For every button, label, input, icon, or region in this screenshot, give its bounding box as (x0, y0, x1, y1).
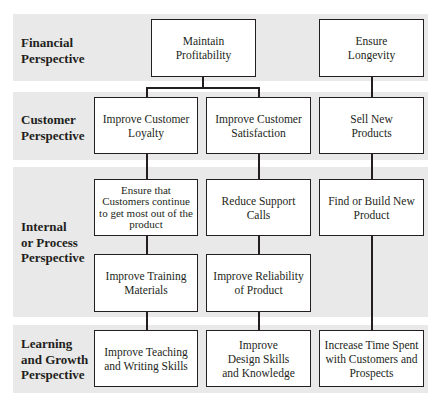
band-label-line: and Growth (21, 352, 88, 368)
node-label: Improve Customer Loyalty (98, 112, 194, 140)
node-sell-new-products: Sell New Products (319, 97, 424, 154)
node-label: Improve Design Skills and Knowledge (210, 338, 307, 380)
connector (371, 77, 373, 97)
node-label: Sell New Products (323, 112, 420, 140)
node-label: Improve Teaching and Writing Skills (98, 345, 194, 373)
node-label: Improve Training Materials (98, 269, 194, 297)
node-label: Improve Customer Satisfaction (210, 112, 307, 140)
band-label-line: or Process (21, 235, 85, 251)
node-improve-design-skills: Improve Design Skills and Knowledge (206, 330, 311, 387)
band-label-line: Perspective (21, 250, 85, 266)
node-find-or-build-new-product: Find or Build New Product (319, 179, 424, 236)
connector (258, 154, 260, 179)
connector (371, 154, 373, 179)
node-improve-customer-satisfaction: Improve Customer Satisfaction (206, 97, 311, 154)
connector (146, 236, 148, 254)
band-label-line: Internal (21, 219, 85, 235)
node-label: Ensure that Customers continue to get mo… (98, 185, 194, 231)
band-label-line: Perspective (21, 51, 85, 67)
node-improve-reliability-of-product: Improve Reliability of Product (206, 254, 311, 312)
band-label-line: Learning (21, 336, 88, 352)
connector (146, 312, 148, 330)
node-maintain-profitability: Maintain Profitability (151, 19, 256, 77)
band-label-internal: Internal or Process Perspective (21, 219, 85, 266)
node-label: Improve Reliability of Product (210, 269, 307, 297)
band-label-line: Perspective (21, 367, 88, 383)
band-label-learning: Learning and Growth Perspective (21, 336, 88, 383)
connector (258, 236, 260, 254)
node-improve-training-materials: Improve Training Materials (94, 254, 198, 312)
connector (371, 236, 373, 330)
band-label-line: Perspective (21, 128, 85, 144)
connector (258, 312, 260, 330)
band-label-line: Customer (21, 112, 85, 128)
node-reduce-support-calls: Reduce Support Calls (206, 179, 311, 236)
connector (146, 87, 259, 89)
node-label: Ensure Longevity (323, 34, 420, 62)
node-label: Find or Build New Product (323, 194, 420, 222)
band-label-financial: Financial Perspective (21, 35, 85, 66)
band-label-line: Financial (21, 35, 85, 51)
connector (258, 87, 260, 97)
node-improve-customer-loyalty: Improve Customer Loyalty (94, 97, 198, 154)
node-label: Reduce Support Calls (210, 194, 307, 222)
node-ensure-customers-continue: Ensure that Customers continue to get mo… (94, 179, 198, 236)
node-increase-time-spent: Increase Time Spent with Customers and P… (319, 330, 424, 387)
node-label: Increase Time Spent with Customers and P… (323, 338, 420, 380)
node-label: Maintain Profitability (155, 34, 252, 62)
connector (146, 87, 148, 97)
node-improve-teaching-writing: Improve Teaching and Writing Skills (94, 330, 198, 387)
connector (146, 154, 148, 179)
band-label-customer: Customer Perspective (21, 112, 85, 143)
node-ensure-longevity: Ensure Longevity (319, 19, 424, 77)
